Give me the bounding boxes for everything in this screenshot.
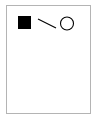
screenshot-canvas <box>0 0 98 120</box>
connector-line-shape <box>38 19 56 28</box>
filled-square-shape <box>18 16 30 28</box>
hollow-circle-shape <box>61 17 74 30</box>
diagram-figure <box>0 0 98 120</box>
